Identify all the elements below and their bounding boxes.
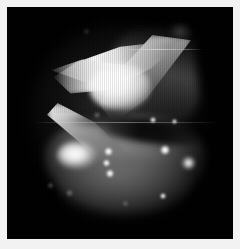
image-noise-grain: [7, 7, 233, 239]
astronomical-image-plate: [7, 7, 233, 239]
image-viewport: Bipolar reflection nebula with X-shaped …: [0, 0, 240, 249]
